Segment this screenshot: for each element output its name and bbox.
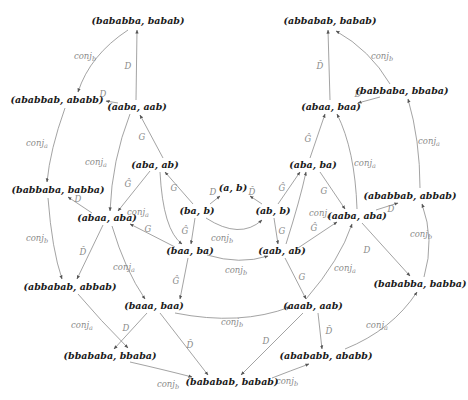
- graph-node-n16: (aab, ab): [258, 245, 305, 257]
- edge-label: conja: [71, 320, 93, 332]
- edge-label: D: [387, 204, 395, 214]
- edge-label: D: [363, 245, 371, 255]
- graph-node-n21: (bbababa, bbaba): [64, 350, 157, 362]
- edge-label: D̂: [316, 60, 324, 71]
- graph-node-n8: (a, b): [219, 182, 247, 194]
- graph-node-n22: (abababb, ababb): [280, 350, 373, 362]
- edge-n21-to-n23: [130, 362, 192, 377]
- edge-n3-to-n10: [110, 114, 130, 211]
- edge-label: G: [279, 226, 286, 236]
- edge-label: conja: [366, 320, 388, 332]
- edge-label: conja: [418, 136, 440, 148]
- edge-label: conja: [354, 158, 376, 170]
- edge-label: Ĝ: [182, 225, 189, 236]
- edge-label: conjb: [221, 317, 243, 329]
- edge-label: conja: [113, 262, 135, 274]
- graph-node-n20: (bababba, babba): [374, 278, 467, 290]
- edge-label: D̂: [79, 246, 87, 257]
- edge-label: G: [171, 183, 178, 193]
- graph-node-n7: (aba, ba): [289, 159, 336, 171]
- graph-node-n0: (bababba, babab): [92, 15, 185, 27]
- edge-label: D: [209, 187, 217, 197]
- edge-n18-to-n23: [160, 313, 208, 375]
- edge-label: conjb: [225, 265, 247, 277]
- edge-label: D̂: [248, 186, 256, 197]
- edge-n20-to-n14: [422, 204, 429, 277]
- edge-n19-to-n23: [241, 313, 303, 375]
- graph-node-n18: (baaa, baa): [124, 300, 184, 312]
- edge-n19-to-n22: [318, 313, 322, 349]
- graph-node-n10: (abaa, aba): [77, 212, 137, 224]
- edge-label: conja: [334, 263, 356, 275]
- edge-label: D̂: [186, 339, 194, 350]
- edge-n9-to-n17: [48, 198, 62, 279]
- edge-label: Ĝ: [311, 222, 318, 233]
- edge-n3-to-n0: [136, 30, 137, 100]
- edge-label: G: [321, 186, 328, 196]
- graph-node-n12: (ab, b): [255, 205, 290, 217]
- edge-label: Ĝ: [305, 133, 312, 144]
- edge-n12-to-n16: [274, 218, 278, 244]
- graph-node-n23: (bababab, babab): [186, 376, 279, 388]
- edge-n0-to-n2: [78, 30, 128, 92]
- edge-n12-to-n8: [250, 196, 262, 204]
- edge-label: D: [122, 323, 130, 333]
- state-graph-diagram: conjbDDconjaconjaGĜconjaGDD̂conjbĜGDconj…: [0, 0, 468, 400]
- edge-n11-to-n12: [206, 218, 262, 230]
- edge-n11-to-n8: [210, 196, 220, 204]
- edge-label: conja: [85, 157, 107, 169]
- graph-node-n13: (aaba, aba): [327, 210, 387, 222]
- edge-label: Ĝ: [173, 275, 180, 286]
- graph-node-n4: (babbaba, bbaba): [356, 85, 449, 97]
- graph-node-n11: (ba, b): [179, 205, 214, 217]
- graph-node-n15: (baa, ba): [166, 245, 213, 257]
- edge-label: conjb: [371, 51, 393, 63]
- graph-node-n14: (ababbab, abbab): [364, 190, 457, 202]
- edge-n11-to-n6: [165, 172, 193, 204]
- edge-n19-to-n13: [306, 224, 352, 299]
- edge-label: conjb: [211, 233, 233, 245]
- edge-label: G: [299, 272, 306, 282]
- edge-label: conjb: [410, 229, 432, 241]
- edge-label: conja: [26, 138, 48, 150]
- edge-n15-to-n16: [207, 255, 268, 260]
- edge-label: conjb: [26, 233, 48, 245]
- edge-n18-to-n21: [114, 313, 147, 349]
- edge-label: conjb: [276, 376, 298, 388]
- edge-label: D: [262, 336, 270, 346]
- edge-label: G: [145, 224, 152, 234]
- edge-label: D̂: [325, 325, 333, 336]
- edge-n5-to-n1: [328, 30, 330, 100]
- graph-node-n1: (abbabab, babab): [284, 15, 377, 27]
- edge-label: Ĝ: [279, 182, 286, 193]
- edge-label: D: [74, 194, 82, 204]
- edge-label: D: [124, 61, 132, 71]
- graph-node-n17: (abbabab, abbab): [24, 281, 117, 293]
- edge-n6-to-n10: [118, 171, 150, 211]
- graph-node-n6: (aba, ab): [131, 159, 178, 171]
- graph-node-n2: (ababbab, ababb): [11, 94, 104, 106]
- graph-node-n3: (aaba, aab): [107, 101, 167, 113]
- edge-label: conjb: [157, 379, 179, 391]
- graph-node-n19: (aaab, aab): [283, 300, 343, 312]
- graph-node-n5: (abaa, baa): [301, 101, 361, 113]
- edge-label: conjb: [74, 51, 96, 63]
- edge-n7-to-n5: [310, 114, 325, 158]
- edge-n2-to-n9: [47, 108, 65, 182]
- edge-label: G: [139, 132, 146, 142]
- graph-node-n9: (babbaba, babba): [12, 184, 105, 196]
- edge-label: Ĝ: [125, 178, 132, 189]
- edge-n11-to-n15: [191, 218, 195, 244]
- edge-n15-to-n18: [180, 258, 188, 299]
